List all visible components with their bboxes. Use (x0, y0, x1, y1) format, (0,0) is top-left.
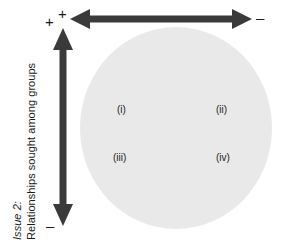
horizontal-axis-negative-sign: – (256, 10, 264, 25)
vertical-axis-positive-sign: + (45, 14, 54, 29)
vertical-axis-negative-sign: – (46, 218, 54, 233)
quadrant-label-iii: (iii) (113, 153, 126, 163)
quadrant-label-ii: (ii) (216, 105, 227, 115)
double-headed-arrow-horizontal-icon (70, 8, 252, 30)
issue-label: Issue 2: (10, 201, 24, 240)
vertical-axis-caption: Issue 2: Relationships sought among grou… (0, 0, 38, 242)
double-headed-arrow-vertical-icon (52, 28, 74, 226)
quadrant-label-iv: (iv) (216, 153, 230, 163)
quadrant-label-i: (i) (117, 105, 126, 115)
quadrant-diagram: Issue 2: Relationships sought among grou… (0, 0, 296, 242)
horizontal-axis-positive-sign: + (58, 6, 67, 21)
field-circle (80, 27, 272, 229)
dimension-label: Relationships sought among groups (24, 63, 38, 240)
